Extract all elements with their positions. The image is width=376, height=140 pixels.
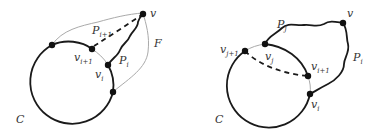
label-p-i: Pi (352, 51, 363, 66)
label-c: C (215, 113, 224, 126)
label-v-j1: vj+1 (220, 43, 239, 58)
label-v-i: vi (95, 68, 103, 83)
vertex-dot-vi1 (305, 73, 311, 79)
label-c: C (16, 113, 25, 126)
vertex-dot-v (340, 20, 346, 26)
label-p-i1: Pi+1 (91, 24, 112, 39)
label-p-j: Pj (276, 18, 287, 33)
cycle-c-thin-arc (92, 49, 108, 65)
label-v-j: vj (265, 50, 274, 65)
label-v: v (347, 7, 354, 20)
vertex-dot-v (140, 11, 146, 17)
label-v-i1: vi+1 (74, 51, 93, 66)
label-v-i: vi (311, 98, 319, 113)
cycle-c-top-arc (52, 42, 92, 49)
vertex-dot-vj (262, 41, 268, 47)
vertex-dot-vi (105, 62, 111, 68)
diagram-canvas: C F v Pi+1 Pi vi+1 vi C v Pj Pi vj+1 vj … (0, 0, 376, 140)
vertex-dot-vi1 (89, 46, 95, 52)
label-v-i1: vi+1 (311, 60, 330, 75)
label-f: F (153, 37, 162, 50)
path-p-i (310, 23, 348, 94)
dashed-chord (245, 51, 308, 76)
label-v: v (150, 7, 157, 20)
label-p-i: Pi (118, 54, 129, 69)
right-figure: C v Pj Pi vj+1 vj vi+1 vi (215, 7, 363, 128)
path-p-i1 (94, 14, 143, 46)
left-figure: C F v Pi+1 Pi vi+1 vi (16, 7, 162, 126)
vertex-dot (110, 89, 116, 95)
vertex-dot-vi (307, 91, 313, 97)
vertex-dot (49, 42, 55, 48)
vertex-dot-vj1 (242, 48, 248, 54)
